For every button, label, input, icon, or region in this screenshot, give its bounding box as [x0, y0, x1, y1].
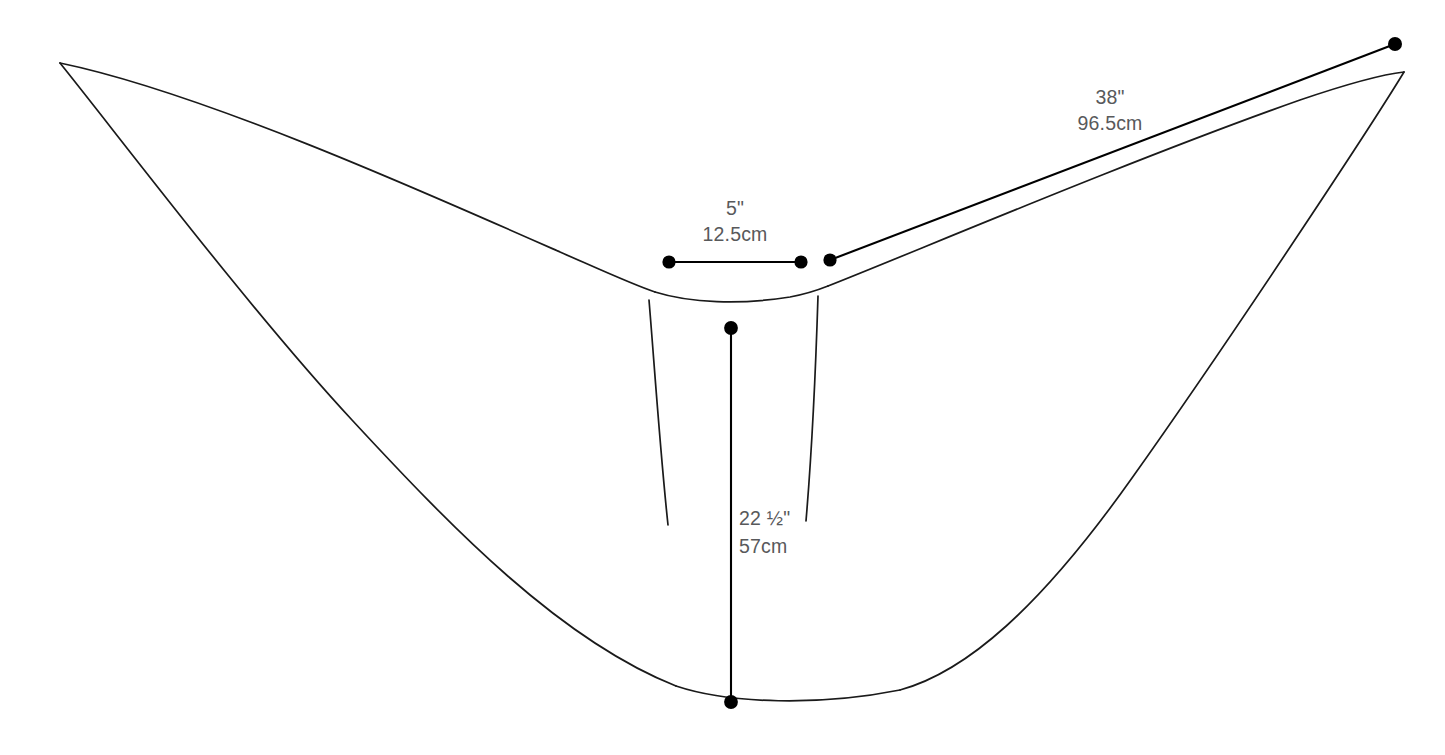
center-back-length-imperial-label: 22 ½"	[739, 507, 790, 529]
pattern-diagram-canvas: 5" 12.5cm 38" 96.5cm 22 ½" 57cm	[0, 0, 1445, 755]
center-bottom-dot	[724, 695, 738, 709]
measurement-lines-group	[669, 44, 1395, 702]
outer-edge-right-path	[900, 72, 1404, 690]
pattern-drawing: 5" 12.5cm 38" 96.5cm 22 ½" 57cm	[0, 0, 1445, 755]
center-top-dot	[724, 321, 738, 335]
shoulder-to-tip-metric-label: 96.5cm	[1077, 112, 1142, 134]
dart-left-line	[649, 300, 668, 525]
right-tip-dot	[1388, 37, 1402, 51]
bottom-edge-path	[676, 686, 900, 701]
dart-right-line	[806, 296, 818, 521]
measurement-dots-group	[662, 37, 1402, 709]
outer-edge-left-path	[60, 63, 676, 686]
neckline-path	[655, 286, 828, 302]
shoulder-to-tip-measure-line	[830, 44, 1395, 260]
neckline-right-dot	[794, 255, 807, 268]
shoulder-to-tip-imperial-label: 38"	[1095, 86, 1124, 108]
shoulder-dot	[823, 253, 836, 266]
center-back-length-metric-label: 57cm	[739, 535, 787, 557]
neckline-width-imperial-label: 5"	[726, 197, 744, 219]
neckline-width-metric-label: 12.5cm	[702, 223, 767, 245]
neckline-left-dot	[662, 255, 675, 268]
measurement-labels-group: 5" 12.5cm 38" 96.5cm 22 ½" 57cm	[702, 86, 1142, 557]
